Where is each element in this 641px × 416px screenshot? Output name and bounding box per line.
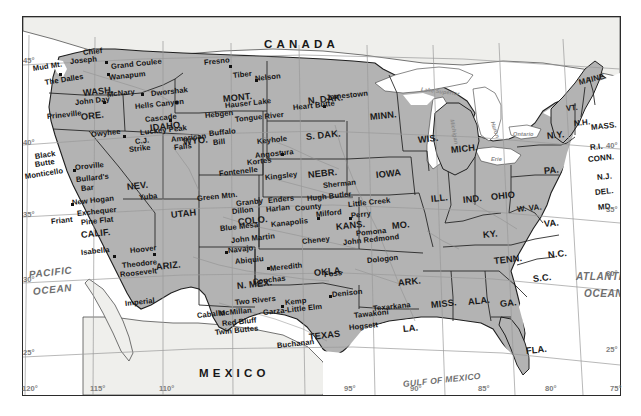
dam-marker [281, 305, 284, 308]
dam-marker [103, 101, 106, 104]
dam-marker [73, 169, 76, 172]
dam-marker [123, 135, 126, 138]
dam-marker [329, 295, 332, 298]
dam-marker [169, 119, 172, 122]
dam-marker [349, 217, 352, 220]
dam-marker [113, 255, 116, 258]
dam-marker [71, 203, 74, 206]
dam-marker [281, 153, 284, 156]
dam-marker [225, 251, 228, 254]
dam-marker [229, 65, 232, 68]
dam-marker [317, 217, 320, 220]
dam-marker [153, 253, 156, 256]
map-graphic [23, 17, 620, 395]
map-frame: CANADA MEXICO PACIFIC OCEAN ATLANTIC OCE… [22, 16, 621, 396]
dam-marker [267, 267, 270, 270]
dam-marker [107, 73, 110, 76]
map-figure: CANADA MEXICO PACIFIC OCEAN ATLANTIC OCE… [0, 0, 641, 416]
dam-marker [141, 93, 144, 96]
dam-marker [323, 105, 326, 108]
dam-marker [175, 101, 178, 104]
dam-marker [59, 73, 62, 76]
dam-marker [105, 61, 108, 64]
dam-marker [255, 79, 258, 82]
